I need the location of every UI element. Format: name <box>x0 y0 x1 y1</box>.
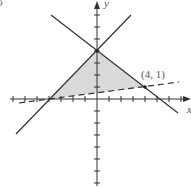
coordinate-plane: 9 y x (4, 1) <box>0 0 191 188</box>
x-axis-label: x <box>186 103 191 115</box>
point-label-4-1: (4, 1) <box>141 68 165 81</box>
y-axis-arrow-icon <box>94 1 100 9</box>
line-y-equals-neg-three-quarters-x-plus-4 <box>51 15 178 113</box>
y-axis-label: y <box>103 0 109 9</box>
vertex-point-4-1 <box>143 85 147 89</box>
vertex-point-0-4 <box>95 49 99 53</box>
corner-label: 9 <box>0 0 3 8</box>
x-axis-arrow-icon <box>183 96 191 102</box>
